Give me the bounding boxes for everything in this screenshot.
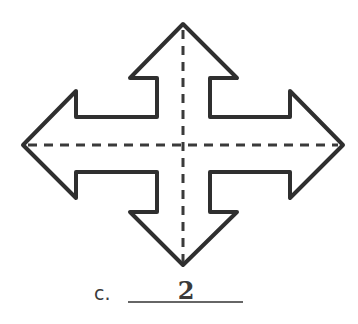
symmetry-figure: c. 2 <box>0 0 358 324</box>
question-label: c. <box>94 282 111 304</box>
answer-value: 2 <box>178 276 195 305</box>
